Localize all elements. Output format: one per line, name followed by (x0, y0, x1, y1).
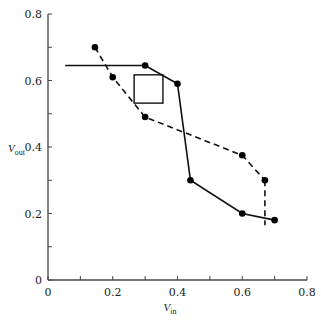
annotations (134, 75, 163, 103)
axes: 00.20.40.60.800.20.40.60.8 (25, 8, 316, 299)
solid-data-point (174, 81, 181, 88)
solid-data-point (142, 62, 149, 69)
y-tick-label: 0.8 (25, 8, 43, 21)
x-tick-label: 0.6 (234, 286, 252, 299)
solid-data-point (239, 210, 246, 217)
y-axis-label-subscript: out (15, 148, 26, 157)
dashed-series-line (95, 47, 265, 180)
dashed-data-point (92, 44, 99, 51)
y-tick-label: 0.6 (25, 75, 43, 88)
x-tick-label: 0.8 (298, 286, 316, 299)
x-tick-label: 0 (45, 286, 52, 299)
y-tick-label: 0.2 (25, 208, 43, 221)
y-tick-label: 0 (35, 274, 42, 287)
chart: 00.20.40.60.800.20.40.60.8 Vin Vout (0, 0, 321, 320)
dashed-data-point (239, 152, 246, 159)
x-axis-label: Vin (164, 301, 177, 316)
y-tick-label: 0.4 (25, 141, 43, 154)
dashed-data-point (109, 74, 116, 81)
dashed-data-point (262, 177, 269, 184)
square-annotation (134, 75, 163, 103)
dashed-data-point (142, 114, 149, 121)
solid-data-point (187, 177, 194, 184)
x-tick-label: 0.2 (104, 286, 122, 299)
x-tick-label: 0.4 (169, 286, 187, 299)
solid-data-point (271, 217, 278, 224)
x-axis-label-subscript: in (170, 307, 176, 316)
series-layer (65, 44, 278, 225)
y-axis-label: Vout (8, 142, 26, 157)
